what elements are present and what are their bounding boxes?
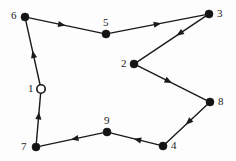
node-4[interactable] <box>159 142 167 150</box>
node-label-4: 4 <box>171 140 177 151</box>
node-label-3: 3 <box>217 8 223 19</box>
node-label-6: 6 <box>11 10 17 21</box>
arrowhead-6-to-5 <box>58 21 66 27</box>
arrowhead-1-to-6 <box>31 51 37 59</box>
node-5[interactable] <box>102 30 110 38</box>
arrowhead-3-to-2 <box>177 29 185 36</box>
edge-3-to-2 <box>138 16 206 61</box>
graph-diagram: 123456789 <box>0 0 236 161</box>
node-2[interactable] <box>130 60 138 68</box>
arrowhead-5-to-3 <box>153 22 161 28</box>
node-label-7: 7 <box>21 141 27 152</box>
node-8[interactable] <box>206 98 214 106</box>
edge-2-to-8 <box>138 66 206 100</box>
node-9[interactable] <box>103 128 111 136</box>
arrowhead-9-to-7 <box>71 135 79 141</box>
node-label-1: 1 <box>28 83 34 94</box>
node-label-5: 5 <box>103 17 109 28</box>
node-3[interactable] <box>205 10 213 18</box>
node-label-8: 8 <box>218 96 224 107</box>
node-7[interactable] <box>32 143 40 151</box>
node-label-9: 9 <box>104 115 110 126</box>
node-6[interactable] <box>21 13 29 21</box>
graph-canvas <box>0 0 236 161</box>
node-label-2: 2 <box>121 58 127 69</box>
node-1[interactable] <box>37 85 45 93</box>
edges-layer <box>26 15 207 146</box>
